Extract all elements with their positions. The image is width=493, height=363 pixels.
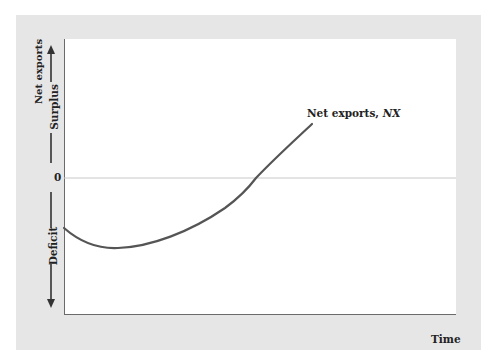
y-axis-label: Net exports — [33, 39, 44, 104]
zero-tick-label: 0 — [54, 171, 61, 183]
series-label-symbol: NX — [383, 107, 401, 119]
x-axis-label: Time — [431, 333, 461, 345]
deficit-arrow-head-icon — [47, 299, 55, 308]
net-exports-curve — [64, 124, 312, 248]
surplus-label: Surplus — [48, 84, 60, 130]
series-label: Net exports, NX — [307, 107, 400, 119]
chart-svg — [0, 0, 493, 363]
series-label-text: Net exports, — [307, 107, 383, 119]
surplus-arrow-head-icon — [47, 45, 55, 54]
deficit-label: Deficit — [47, 227, 59, 266]
